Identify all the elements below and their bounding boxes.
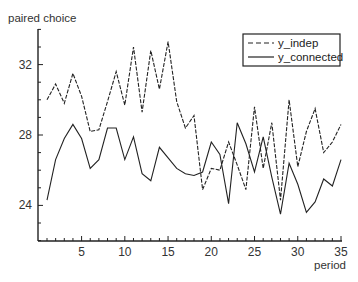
legend-label-y-connected: y_connected xyxy=(278,51,343,63)
x-tick-label: 30 xyxy=(291,245,305,259)
series-lines xyxy=(47,42,341,215)
x-tick-label: 35 xyxy=(334,245,348,259)
x-tick-label: 20 xyxy=(205,245,219,259)
legend-label-y-indep: y_indep xyxy=(278,37,318,49)
y-tick-label: 32 xyxy=(19,58,33,72)
x-tick-label: 25 xyxy=(248,245,262,259)
x-tick-label: 15 xyxy=(161,245,175,259)
x-tick-label: 10 xyxy=(118,245,132,259)
legend: y_indep y_connected xyxy=(243,34,343,66)
x-axis-title: period xyxy=(314,259,346,271)
y-tick-label: 28 xyxy=(19,128,33,142)
x-tick-label: 5 xyxy=(78,245,85,259)
y-axis-title: paired choice xyxy=(8,12,76,24)
line-chart: paired choice 2428325101520253035 period… xyxy=(0,0,358,282)
series-y-connected xyxy=(47,123,341,215)
y-tick-label: 24 xyxy=(19,198,33,212)
